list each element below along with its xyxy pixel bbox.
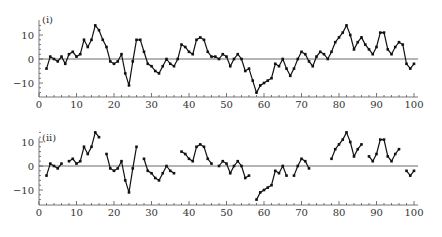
data-point [281,58,284,61]
data-point [304,160,307,163]
data-point [71,51,74,54]
data-point [79,160,82,163]
data-point [188,158,191,161]
data-point [210,162,213,165]
data-point [386,155,389,158]
data-point [349,34,352,37]
data-point [86,153,89,156]
data-point [240,58,243,61]
data-point [334,148,337,151]
series-line [332,132,362,158]
data-point [135,146,138,149]
data-point [349,141,352,144]
data-point [116,60,119,63]
data-point [278,172,281,175]
data-point [94,24,97,27]
data-point [173,172,176,175]
data-point [248,67,251,70]
data-point [266,79,269,82]
data-point [413,170,416,173]
data-point [338,143,341,146]
data-point [274,63,277,66]
data-point [98,29,101,32]
data-point [401,43,404,46]
data-point [319,51,322,54]
data-point [266,186,269,189]
data-point [195,146,198,149]
data-point [229,172,232,175]
data-point [379,31,382,34]
data-point [113,63,116,66]
data-point [383,31,386,34]
data-point [394,153,397,156]
data-point [188,51,191,54]
data-point [356,41,359,44]
data-point [341,138,344,141]
data-point [116,167,119,170]
data-point [360,36,363,39]
data-point [203,146,206,149]
data-point [109,60,112,63]
data-point [236,160,239,163]
data-point [353,155,356,158]
data-point [180,43,183,46]
series-line [294,159,309,176]
data-point [293,67,296,70]
data-point [184,46,187,49]
x-tick-label: 0 [36,207,42,218]
data-point [409,67,412,70]
data-point [191,160,194,163]
data-point [323,53,326,56]
panel-label: (ii) [42,132,56,143]
data-point [281,165,284,168]
data-point [259,191,262,194]
data-point [150,65,153,68]
data-point [60,55,63,58]
x-tick-label: 20 [108,207,121,218]
data-point [98,136,101,139]
data-point [259,84,262,87]
data-point [368,155,371,158]
data-point [56,60,59,63]
data-point [90,146,93,149]
chart-canvas: 0102030405060708090100−10010(i)010203040… [0,0,442,237]
series-line [257,166,287,200]
data-point [300,51,303,54]
data-point [330,158,333,161]
data-point [180,150,183,153]
data-point [206,158,209,161]
data-point [79,53,82,56]
data-point [308,167,311,170]
data-point [143,51,146,54]
data-point [413,63,416,66]
y-tick-label: −10 [13,185,34,196]
data-point [398,41,401,44]
x-tick-label: 100 [404,99,423,110]
data-point [53,165,56,168]
data-point [285,67,288,70]
x-tick-label: 40 [183,99,196,110]
data-point [263,82,266,85]
data-point [330,51,333,54]
x-tick-label: 80 [333,207,346,218]
data-point [240,165,243,168]
data-point [161,65,164,68]
data-point [218,165,221,168]
x-tick-label: 30 [145,99,158,110]
data-point [304,53,307,56]
data-point [135,39,138,42]
x-tick-label: 70 [295,99,308,110]
data-point [146,63,149,66]
data-point [296,165,299,168]
data-point [248,174,251,177]
data-point [274,170,277,173]
data-point [360,143,363,146]
data-point [371,53,374,56]
data-point [199,143,202,146]
data-point [270,184,273,187]
data-point [383,138,386,141]
data-point [379,138,382,141]
data-point [101,39,104,42]
data-point [191,53,194,56]
data-point [405,63,408,66]
